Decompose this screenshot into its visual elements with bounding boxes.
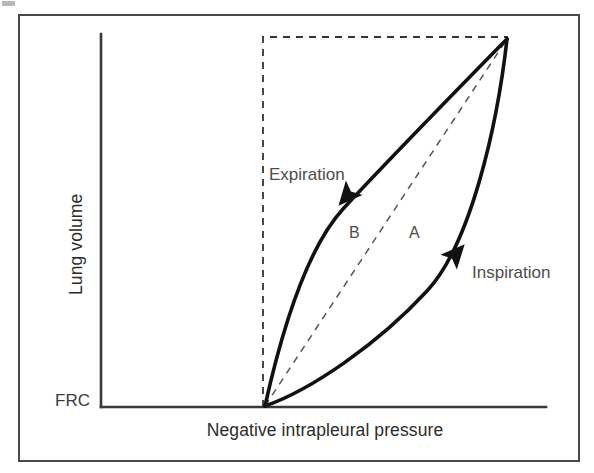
scan-artifact-speck <box>2 1 15 6</box>
region-a-label: A <box>409 224 420 241</box>
expiration-label: Expiration <box>269 165 345 184</box>
inspiration-label: Inspiration <box>472 263 550 282</box>
y-axis-title: Lung volume <box>66 194 86 295</box>
lung-compliance-hysteresis-figure: Lung volume FRC Negative intrapleural pr… <box>0 0 594 473</box>
figure-container: Lung volume FRC Negative intrapleural pr… <box>0 0 594 473</box>
x-axis-title: Negative intrapleural pressure <box>207 420 443 440</box>
y-axis-tick-frc: FRC <box>55 391 90 410</box>
region-b-label: B <box>349 224 360 241</box>
figure-border <box>19 15 579 461</box>
